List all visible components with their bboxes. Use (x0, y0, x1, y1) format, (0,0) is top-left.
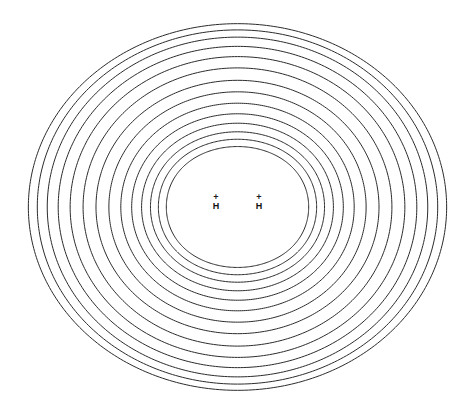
contour-plot-figure: + H + H (0, 0, 468, 418)
contour-line-1 (166, 147, 308, 268)
contour-line-3 (150, 132, 324, 282)
atom-symbol-h-left: H (196, 201, 236, 211)
atom-symbol-h-right: H (239, 201, 279, 211)
contour-line-12 (47, 37, 428, 377)
contour-line-2 (158, 139, 316, 274)
contour-line-11 (58, 46, 417, 367)
atom-label-h-right: + H (239, 194, 279, 211)
contour-line-6 (121, 103, 354, 311)
contour-line-4 (142, 123, 334, 291)
contour-line-7 (109, 92, 366, 322)
contour-line-14 (28, 24, 446, 391)
atom-charge-plus-left: + (196, 194, 236, 201)
atom-charge-plus-right: + (239, 194, 279, 201)
contour-line-5 (132, 114, 344, 300)
contour-line-9 (83, 68, 392, 346)
atom-label-h-left: + H (196, 194, 236, 211)
contour-line-8 (96, 80, 379, 333)
contour-line-13 (37, 30, 437, 384)
